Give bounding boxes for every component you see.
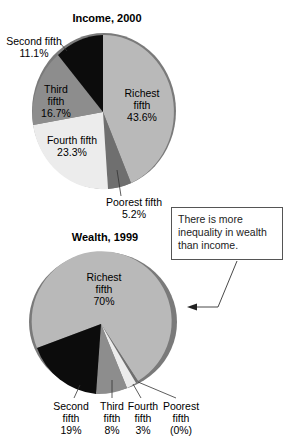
income-label-richest-value: 43.6% (127, 111, 157, 123)
callout-arrowhead-icon (187, 304, 197, 311)
callout-leader-line (196, 261, 237, 307)
wealth-label-poorest-word: fifth (173, 412, 190, 424)
income-label-richest-word: fifth (134, 99, 151, 111)
wealth-label-second-name: Second (53, 400, 89, 412)
income-label-third-name: Third (44, 83, 68, 95)
income-chart-title: Income, 2000 (72, 12, 141, 24)
income-label-poorest-name: Poorest fifth (106, 196, 162, 208)
wealth-label-richest-name: Richest (86, 271, 121, 283)
wealth-label-richest-word: fifth (96, 283, 113, 295)
income-label-richest-name: Richest (124, 87, 159, 99)
wealth-fourth-leader (133, 384, 141, 398)
wealth-label-second-value: 19% (60, 424, 81, 436)
wealth-label-fourth-value: 3% (135, 424, 150, 436)
wealth-label-poorest-value: (0%) (170, 424, 192, 436)
annotation-callout: There is more inequality in wealth than … (171, 207, 283, 260)
income-label-poorest-value: 5.2% (122, 208, 146, 220)
income-label-third-word: fifth (48, 95, 65, 107)
income-label-second-value: 11.1% (20, 47, 49, 59)
wealth-poorest-leader (138, 382, 176, 398)
wealth-label-second-word: fifth (63, 412, 80, 424)
wealth-label-richest-value: 70% (93, 295, 114, 307)
income-label-third-value: 16.7% (41, 107, 71, 119)
wealth-chart-title: Wealth, 1999 (72, 231, 138, 243)
wealth-label-fourth-name: Fourth (128, 400, 159, 412)
wealth-label-third-name: Third (100, 400, 124, 412)
wealth-label-poorest-name: Poorest (163, 400, 199, 412)
income-label-second-name: Second fifth (6, 35, 62, 47)
income-label-fourth-name: Fourth fifth (47, 134, 97, 146)
annotation-text: There is more inequality in wealth than … (178, 213, 267, 251)
income-label-fourth-value: 23.3% (57, 146, 87, 158)
wealth-label-third-word: fifth (104, 412, 121, 424)
wealth-label-third-value: 8% (104, 424, 119, 436)
wealth-label-fourth-word: fifth (135, 412, 152, 424)
